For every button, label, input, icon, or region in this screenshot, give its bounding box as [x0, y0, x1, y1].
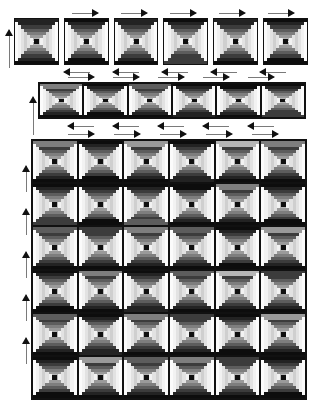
- quilt-block[interactable]: [32, 270, 78, 313]
- ring-strip-horizontal: [271, 343, 296, 346]
- quilt-block[interactable]: [78, 313, 124, 356]
- quilt-block[interactable]: [260, 356, 306, 399]
- quilt-block[interactable]: [172, 83, 216, 118]
- ring-strip-horizontal: [182, 211, 201, 214]
- quilt-layout-grid[interactable]: [31, 139, 307, 400]
- courthouse-steps-rings: [261, 357, 305, 398]
- quilt-block[interactable]: [32, 226, 78, 269]
- ring-strip-horizontal: [131, 173, 162, 176]
- ring-strip-vertical: [207, 360, 210, 395]
- arrow-right-marker: [68, 130, 94, 139]
- quilt-block[interactable]: [78, 183, 124, 226]
- quilt-block[interactable]: [32, 140, 78, 183]
- center-square: [59, 99, 64, 103]
- quilt-block[interactable]: [216, 83, 260, 118]
- center-square: [189, 375, 194, 380]
- ring-strip-vertical: [302, 227, 305, 268]
- quilt-block[interactable]: [78, 270, 124, 313]
- quilt-block[interactable]: [14, 18, 59, 65]
- quilt-block[interactable]: [169, 226, 215, 269]
- quilt-block[interactable]: [260, 270, 306, 313]
- courthouse-steps-rings: [33, 184, 77, 225]
- ring-strip-horizontal: [93, 108, 117, 110]
- block-preview-row[interactable]: [14, 18, 308, 65]
- ring-strip-vertical: [253, 317, 256, 352]
- ring-strip-horizontal: [261, 266, 305, 269]
- ring-strip-horizontal: [82, 219, 119, 222]
- ring-strip-horizontal: [170, 352, 214, 355]
- quilt-block[interactable]: [169, 183, 215, 226]
- ring-strip-horizontal: [264, 263, 301, 266]
- ring-strip-horizontal: [88, 170, 113, 173]
- quilt-block[interactable]: [123, 140, 169, 183]
- ring-strip-horizontal: [49, 337, 62, 340]
- ring-strip-horizontal: [130, 45, 142, 48]
- ring-strip-vertical: [74, 357, 77, 398]
- ring-strip-horizontal: [94, 165, 106, 168]
- quilt-block[interactable]: [169, 313, 215, 356]
- quilt-block[interactable]: [260, 226, 306, 269]
- center-square: [233, 39, 238, 44]
- ring-strip-horizontal: [274, 340, 293, 343]
- ring-strip-horizontal: [46, 110, 76, 112]
- ring-strip-vertical: [105, 19, 108, 64]
- ring-strip-vertical: [74, 271, 77, 312]
- quilt-block[interactable]: [83, 83, 127, 118]
- quilt-block[interactable]: [78, 140, 124, 183]
- quilt-block[interactable]: [128, 83, 172, 118]
- row-assembly-strip[interactable]: [38, 82, 306, 119]
- ring-strip-horizontal: [131, 260, 162, 263]
- quilt-block[interactable]: [213, 18, 258, 65]
- quilt-block[interactable]: [260, 140, 306, 183]
- ring-strip-horizontal: [182, 254, 201, 257]
- ring-strip-vertical: [79, 84, 82, 117]
- courthouse-steps-rings: [33, 141, 77, 182]
- quilt-block[interactable]: [169, 270, 215, 313]
- quilt-block[interactable]: [215, 270, 261, 313]
- courthouse-steps-rings: [129, 84, 171, 117]
- quilt-block[interactable]: [215, 140, 261, 183]
- ring-strip-horizontal: [137, 254, 156, 257]
- ring-strip-horizontal: [261, 309, 305, 312]
- ring-strip-vertical: [207, 273, 210, 308]
- quilt-block[interactable]: [32, 356, 78, 399]
- quilt-block[interactable]: [123, 183, 169, 226]
- quilt-block[interactable]: [123, 270, 169, 313]
- ring-strip-horizontal: [30, 45, 42, 48]
- quilt-block[interactable]: [39, 83, 83, 118]
- quilt-block[interactable]: [261, 83, 305, 118]
- arrow-up-marker: [22, 295, 31, 321]
- quilt-block[interactable]: [215, 313, 261, 356]
- ring-strip-vertical: [302, 141, 305, 182]
- quilt-block[interactable]: [32, 313, 78, 356]
- center-square: [189, 289, 194, 294]
- quilt-block[interactable]: [78, 356, 124, 399]
- quilt-block[interactable]: [32, 183, 78, 226]
- quilt-block[interactable]: [169, 140, 215, 183]
- quilt-block[interactable]: [123, 356, 169, 399]
- quilt-block[interactable]: [215, 356, 261, 399]
- ring-strip-horizontal: [179, 257, 204, 260]
- ring-strip-horizontal: [225, 170, 250, 173]
- ring-strip-vertical: [165, 271, 168, 312]
- ring-strip-vertical: [116, 230, 119, 265]
- ring-strip-horizontal: [124, 51, 148, 54]
- ring-strip-horizontal: [219, 219, 256, 222]
- quilt-block[interactable]: [64, 18, 109, 65]
- quilt-block[interactable]: [114, 18, 159, 65]
- ring-strip-horizontal: [74, 51, 98, 54]
- quilt-block[interactable]: [163, 18, 208, 65]
- quilt-block[interactable]: [169, 356, 215, 399]
- quilt-block[interactable]: [263, 18, 308, 65]
- quilt-block[interactable]: [260, 313, 306, 356]
- quilt-block[interactable]: [215, 226, 261, 269]
- quilt-block[interactable]: [123, 226, 169, 269]
- quilt-block[interactable]: [260, 183, 306, 226]
- ring-strip-horizontal: [140, 380, 152, 383]
- quilt-block[interactable]: [78, 226, 124, 269]
- ring-strip-horizontal: [91, 340, 110, 343]
- quilt-block[interactable]: [123, 313, 169, 356]
- ring-strip-vertical: [250, 320, 253, 349]
- quilt-block[interactable]: [215, 183, 261, 226]
- ring-strip-horizontal: [217, 115, 259, 117]
